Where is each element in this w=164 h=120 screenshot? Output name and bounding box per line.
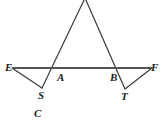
geometry-figure: E A B F S T C: [0, 0, 164, 120]
point-label-B: B: [110, 72, 117, 83]
geometry-canvas: [0, 0, 164, 120]
segment-T-to-F: [125, 68, 152, 89]
point-label-A: A: [57, 72, 64, 83]
point-label-S: S: [38, 90, 44, 101]
segment-apex-to-T: [85, 0, 125, 89]
point-label-E: E: [5, 62, 12, 73]
point-label-C: C: [34, 108, 41, 119]
point-label-T: T: [121, 91, 128, 102]
point-label-F: F: [151, 62, 158, 73]
segment-E-to-S: [12, 68, 42, 88]
